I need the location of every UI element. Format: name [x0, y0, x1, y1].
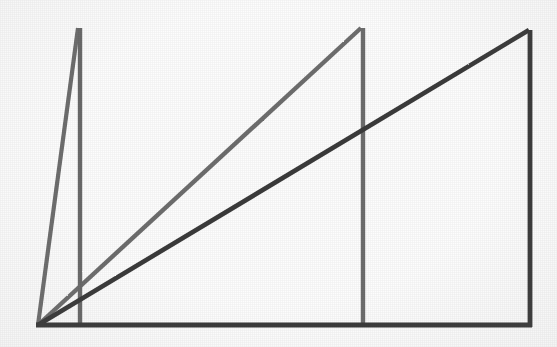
figure-canvas [0, 0, 557, 347]
triangles-figure [0, 0, 557, 347]
